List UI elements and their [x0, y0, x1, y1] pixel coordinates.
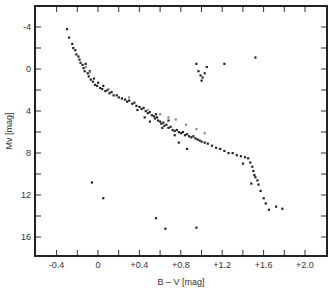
star-point: [206, 66, 208, 68]
star-point: [165, 124, 167, 126]
star-point: [196, 138, 198, 140]
star-point: [90, 79, 92, 81]
star-point: [194, 137, 196, 139]
star-point: [155, 217, 157, 219]
star-point: [192, 135, 194, 137]
star-point: [167, 116, 169, 118]
star-point: [124, 98, 126, 100]
star-point: [254, 56, 256, 58]
star-point: [84, 70, 86, 72]
star-point: [202, 76, 204, 78]
star-point: [66, 28, 68, 30]
star-point: [176, 129, 178, 131]
star-point: [126, 101, 128, 103]
star-point: [138, 106, 140, 108]
x-tick-label: +1.2: [213, 260, 231, 270]
star-point: [223, 63, 225, 65]
star-point: [174, 130, 176, 132]
star-point: [163, 125, 165, 127]
axis-ticks: [35, 6, 327, 256]
star-point: [89, 71, 91, 73]
star-point: [207, 143, 209, 145]
star-point: [204, 142, 206, 144]
star-point: [121, 97, 123, 99]
star-point: [174, 134, 176, 136]
star-point: [118, 96, 120, 98]
star-point: [79, 62, 81, 64]
star-point: [190, 136, 192, 138]
star-point: [186, 148, 188, 150]
star-point: [68, 37, 70, 39]
star-point: [147, 112, 149, 114]
star-point: [104, 90, 106, 92]
star-point: [242, 163, 244, 165]
star-point: [154, 117, 156, 119]
star-point: [249, 161, 251, 163]
x-tick-label: +0.4: [131, 260, 149, 270]
star-point: [182, 131, 184, 133]
star-point: [263, 197, 265, 199]
star-point: [215, 147, 217, 149]
star-point: [175, 118, 177, 120]
star-point: [160, 123, 162, 125]
star-point: [178, 131, 180, 133]
star-point: [102, 197, 104, 199]
star-point: [72, 47, 74, 49]
star-point: [136, 109, 138, 111]
star-point: [247, 157, 249, 159]
star-point: [149, 111, 151, 113]
star-point: [197, 70, 199, 72]
star-point: [113, 94, 115, 96]
star-point: [131, 103, 133, 105]
star-point: [211, 145, 213, 147]
star-point: [254, 176, 256, 178]
x-tick-label: +1.6: [255, 260, 273, 270]
star-point: [94, 84, 96, 86]
star-point: [145, 110, 147, 112]
y-tick-label: 16: [21, 232, 31, 242]
star-point: [162, 122, 164, 124]
star-point: [164, 228, 166, 230]
star-point: [88, 75, 90, 77]
star-point: [83, 67, 85, 69]
star-point: [219, 148, 221, 150]
star-point: [201, 80, 203, 82]
y-axis-label: Mv [mag]: [4, 112, 14, 149]
star-point: [268, 209, 270, 211]
y-tick-label: 4: [26, 106, 31, 116]
star-point: [107, 88, 109, 90]
star-point: [159, 121, 161, 123]
star-point: [156, 116, 158, 118]
star-point: [199, 74, 201, 76]
star-point: [74, 49, 76, 51]
star-point: [157, 119, 159, 121]
star-point: [85, 63, 87, 65]
y-tick-label: 12: [21, 190, 31, 200]
star-point: [184, 134, 186, 136]
star-point: [99, 87, 101, 89]
plot-frame: [35, 6, 327, 256]
star-point: [147, 109, 149, 111]
star-point: [128, 96, 130, 98]
star-point: [198, 139, 200, 141]
star-point: [81, 64, 83, 66]
star-point: [92, 81, 94, 83]
star-point: [151, 114, 153, 116]
star-point: [77, 55, 79, 57]
star-point: [257, 184, 259, 186]
y-tick-label: -4: [23, 22, 31, 32]
star-point: [167, 127, 169, 129]
y-tick-label: 0: [26, 64, 31, 74]
star-point: [253, 174, 255, 176]
star-point: [116, 94, 118, 96]
star-point: [149, 121, 151, 123]
star-point: [144, 116, 146, 118]
star-point: [178, 142, 180, 144]
star-point: [204, 72, 206, 74]
star-point: [159, 113, 161, 115]
star-point: [201, 140, 203, 142]
star-point: [78, 59, 80, 61]
star-point: [143, 107, 145, 109]
star-point: [250, 182, 252, 184]
star-point: [265, 202, 267, 204]
